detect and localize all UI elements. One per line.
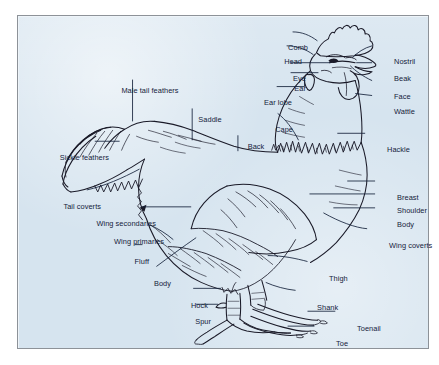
label-hock: Hock bbox=[191, 301, 208, 310]
label-tail-coverts: Tail coverts bbox=[63, 202, 101, 211]
label-body-right: Body bbox=[397, 220, 414, 229]
label-thigh: Thigh bbox=[329, 274, 348, 283]
label-wing-secondaries: Wing secondaries bbox=[96, 219, 156, 228]
label-cape: Cape bbox=[275, 125, 293, 134]
label-back: Back bbox=[248, 142, 265, 151]
label-wing-primaries: Wing primaries bbox=[114, 237, 164, 246]
diagram-root: Comb Head Eye Ear Ear lobe Cape Nostril … bbox=[0, 0, 439, 365]
label-head: Head bbox=[284, 57, 302, 66]
label-wattle: Wattle bbox=[394, 107, 415, 116]
label-shoulder: Shoulder bbox=[397, 206, 427, 215]
label-eye: Eye bbox=[293, 74, 306, 83]
label-fluff: Fluff bbox=[135, 257, 150, 266]
diagram-frame: Comb Head Eye Ear Ear lobe Cape Nostril … bbox=[17, 15, 429, 349]
label-shank: Shank bbox=[317, 303, 338, 312]
rooster-illustration bbox=[18, 16, 428, 348]
label-spur: Spur bbox=[195, 317, 211, 326]
comb-shape bbox=[316, 25, 372, 56]
label-male-tail-feathers: Male tail feathers bbox=[121, 86, 178, 95]
label-sickle-feathers: Sickle feathers bbox=[60, 153, 109, 162]
label-breast: Breast bbox=[397, 193, 419, 202]
label-hackle: Hackle bbox=[387, 145, 410, 154]
label-beak: Beak bbox=[394, 74, 411, 83]
label-face: Face bbox=[394, 92, 411, 101]
label-toe: Toe bbox=[336, 339, 348, 348]
label-body-left: Body bbox=[154, 279, 171, 288]
label-nostril: Nostril bbox=[394, 57, 415, 66]
label-ear: Ear bbox=[294, 84, 306, 93]
label-saddle: Saddle bbox=[198, 115, 221, 124]
label-ear-lobe: Ear lobe bbox=[264, 98, 292, 107]
label-toenail: Toenail bbox=[357, 324, 381, 333]
label-comb: Comb bbox=[288, 43, 308, 52]
label-wing-coverts: Wing coverts bbox=[389, 241, 432, 250]
